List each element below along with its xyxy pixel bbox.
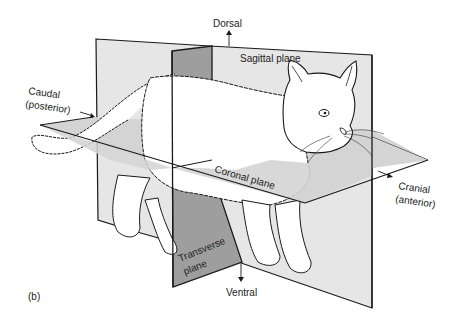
cranial-label-sub: (anterior) bbox=[395, 193, 437, 210]
dorsal-arrow bbox=[226, 30, 232, 46]
anatomical-planes-figure: Dorsal Ventral Caudal (posterior) Crania… bbox=[0, 0, 458, 325]
dorsal-label: Dorsal bbox=[213, 18, 242, 29]
caudal-label-sub: (posterior) bbox=[25, 98, 72, 115]
sagittal-plane-label: Sagittal plane bbox=[240, 53, 301, 64]
panel-label: (b) bbox=[28, 291, 40, 302]
ventral-label: Ventral bbox=[226, 287, 257, 298]
ventral-arrow bbox=[238, 264, 244, 282]
caudal-arrow bbox=[80, 112, 95, 118]
